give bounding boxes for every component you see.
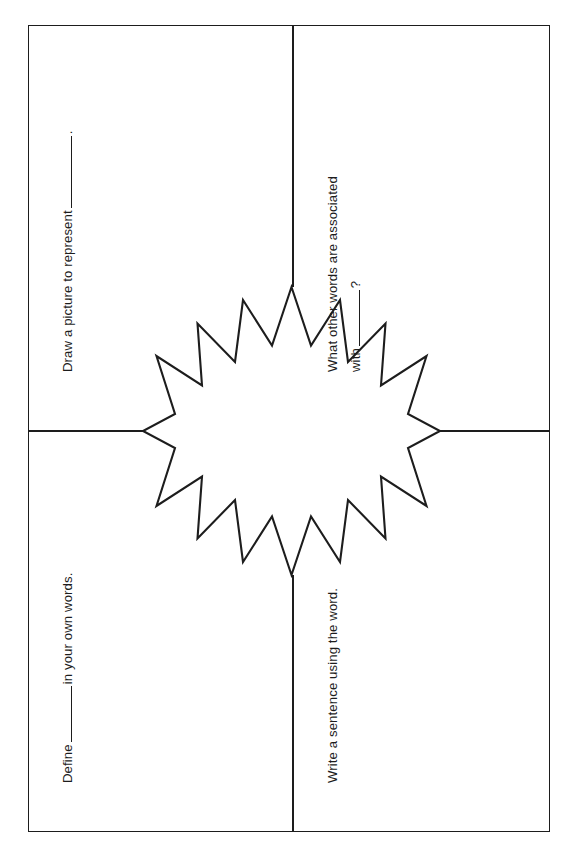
prompt-associated-blank[interactable] (359, 290, 360, 346)
prompt-define-word: Definein your own words. (57, 573, 78, 783)
prompt-draw-suffix: . (60, 130, 75, 134)
prompt-draw-prefix: Draw a picture to represent (60, 210, 75, 372)
divider-line-left (28, 430, 144, 432)
prompt-sentence-text: Write a sentence using the word. (325, 588, 340, 783)
prompt-define-blank[interactable] (71, 686, 72, 742)
prompt-associated-line1: What other words are associated (325, 176, 340, 372)
prompt-define-prefix: Define (60, 744, 75, 783)
prompt-write-sentence: Write a sentence using the word. (322, 588, 343, 783)
prompt-draw-blank[interactable] (71, 136, 72, 208)
prompt-associated-words: What other words are associated with? (322, 176, 367, 372)
worksheet-frame (28, 25, 550, 832)
prompt-associated-line2-prefix: with (348, 348, 363, 372)
divider-line-right (439, 430, 550, 432)
worksheet-page: Draw a picture to represent. What other … (0, 0, 567, 850)
prompt-draw-picture: Draw a picture to represent. (57, 130, 78, 372)
divider-line-top (292, 25, 294, 287)
prompt-associated-line2-suffix: ? (348, 281, 363, 288)
prompt-define-suffix: in your own words. (60, 573, 75, 685)
divider-line-bottom (292, 575, 294, 832)
prompt-associated-line2: with? (345, 176, 366, 372)
